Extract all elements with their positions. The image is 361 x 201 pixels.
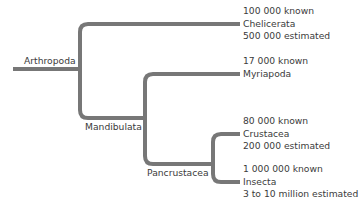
branch-mandibulata [80,69,145,118]
leaf-name: Chelicerata [243,18,330,31]
leaf-chelicerata: 100 000 known Chelicerata 500 000 estima… [243,5,330,43]
leaf-estimated-count: 500 000 estimated [243,30,330,43]
branch-myriapoda [145,74,240,118]
leaf-known-count: 100 000 known [243,5,330,18]
leaf-known-count: 17 000 known [243,55,308,68]
leaf-myriapoda: 17 000 known Myriapoda [243,55,308,80]
leaf-crustacea: 80 000 known Crustacea 200 000 estimated [243,115,330,153]
leaf-known-count: 80 000 known [243,115,330,128]
leaf-name: Myriapoda [243,68,308,81]
leaf-name: Crustacea [243,128,330,141]
leaf-insecta: 1 000 000 known Insecta 3 to 10 million … [243,163,358,201]
leaf-name: Insecta [243,176,358,189]
branch-pancrustacea [145,118,213,164]
node-label-arthropoda: Arthropoda [24,55,76,67]
branch-chelicerata [80,24,240,69]
branch-insecta [213,164,240,182]
leaf-known-count: 1 000 000 known [243,163,358,176]
node-label-pancrustacea: Pancrustacea [147,167,209,179]
leaf-estimated-count: 200 000 estimated [243,140,330,153]
branch-crustacea [213,134,240,164]
leaf-estimated-count: 3 to 10 million estimated [243,188,358,201]
node-label-mandibulata: Mandibulata [85,121,142,133]
